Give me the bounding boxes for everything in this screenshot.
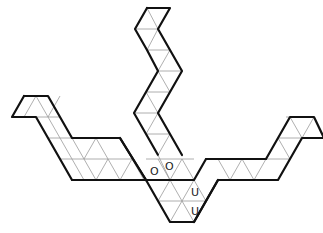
left-arm [12, 96, 148, 180]
top-strip [134, 8, 182, 155]
triangle-grid-diagram: O O U U [0, 0, 323, 233]
label-u-2: U [191, 206, 199, 217]
label-o-1: O [150, 166, 159, 177]
right-arm [194, 117, 323, 222]
label-o-2: O [165, 161, 174, 172]
label-u-1: U [191, 187, 199, 198]
grid-net-svg [0, 0, 323, 233]
